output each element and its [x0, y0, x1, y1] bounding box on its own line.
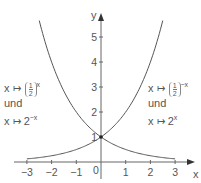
- left-label-und: und: [4, 97, 22, 109]
- x-tick-label: −2: [46, 166, 58, 178]
- y-tick-label: 5: [91, 31, 97, 43]
- right-label-und: und: [148, 97, 166, 109]
- y-axis-label: y: [91, 9, 97, 21]
- exponent: −x: [30, 114, 38, 121]
- mapsto-symbol: ↦: [13, 83, 21, 94]
- left-label-line3: x ↦ 2−x: [4, 112, 37, 128]
- x-axis-arrow-icon: [187, 159, 195, 165]
- right-label-line3: x ↦ 2x: [148, 112, 177, 128]
- mapsto-symbol: ↦: [13, 116, 21, 127]
- fraction-one-half: 12: [25, 82, 37, 97]
- right-curve-label: x ↦ 12−x: [148, 79, 188, 97]
- x-axis-label: x: [193, 168, 199, 180]
- x-tick-label: 2: [147, 166, 153, 178]
- left-curve-label: x ↦ 12x: [4, 79, 40, 97]
- label-var: x: [148, 82, 154, 94]
- exponent: x: [37, 81, 41, 88]
- x-tick-label: 3: [172, 166, 178, 178]
- fraction-one-half: 12: [169, 82, 181, 97]
- y-tick-label: 3: [91, 81, 97, 93]
- exponent: x: [174, 114, 178, 121]
- y-tick-label: 4: [91, 56, 97, 68]
- intersection-point: [99, 135, 103, 139]
- origin-label: 0: [93, 164, 99, 176]
- mapsto-symbol: ↦: [157, 83, 165, 94]
- y-axis-arrow-icon: [98, 13, 104, 21]
- mapsto-symbol: ↦: [157, 116, 165, 127]
- exponent: −x: [181, 81, 189, 88]
- x-tick-label: −3: [21, 166, 33, 178]
- x-tick-label: 1: [123, 166, 129, 178]
- x-tick-label: −1: [70, 166, 82, 178]
- y-tick-label: 2: [91, 106, 97, 118]
- label-var: x: [4, 82, 10, 94]
